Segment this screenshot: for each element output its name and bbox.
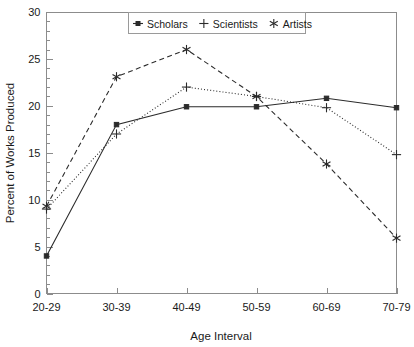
data-point-scholars-20-29 <box>44 254 48 258</box>
x-axis-ticks <box>48 288 398 294</box>
y-axis-tick-labels: 051015202530 <box>28 6 40 300</box>
x-category-label-30-39: 30-39 <box>102 301 130 313</box>
x-category-label-40-49: 40-49 <box>172 301 200 313</box>
series-artists <box>43 45 401 243</box>
y-tick-label: 0 <box>34 288 40 300</box>
series-line-scientists <box>47 87 397 209</box>
data-point-scientists-40-49 <box>182 82 191 91</box>
y-tick-label: 10 <box>28 194 40 206</box>
data-point-scholars-30-39 <box>114 122 118 126</box>
data-point-scholars-70-79 <box>394 106 398 110</box>
x-axis-title: Age Interval <box>190 330 251 342</box>
y-tick-label: 5 <box>34 241 40 253</box>
y-tick-label: 30 <box>28 6 40 18</box>
data-point-artists-40-49 <box>183 45 191 54</box>
series-line-scholars <box>47 98 397 256</box>
x-category-label-60-69: 60-69 <box>312 301 340 313</box>
series-line-artists <box>47 50 397 239</box>
data-point-scientists-70-79 <box>392 150 401 159</box>
data-point-scholars-60-69 <box>324 96 328 100</box>
legend-label-scientists: Scientists <box>213 18 258 30</box>
series-scientists <box>42 82 401 213</box>
data-point-artists-30-39 <box>113 72 121 81</box>
data-point-scholars-40-49 <box>184 105 188 109</box>
x-category-label-70-79: 70-79 <box>382 301 410 313</box>
plot-frame <box>47 12 397 294</box>
y-tick-label: 25 <box>28 53 40 65</box>
y-axis-title: Percent of Works Produced <box>4 83 16 223</box>
x-category-label-50-59: 50-59 <box>242 301 270 313</box>
legend-label-scholars: Scholars <box>147 18 188 30</box>
data-point-scientists-60-69 <box>322 103 331 112</box>
y-tick-label: 20 <box>28 100 40 112</box>
legend-label-artists: Artists <box>283 18 312 30</box>
series-scholars <box>44 96 398 258</box>
x-category-label-20-29: 20-29 <box>32 301 60 313</box>
series-group <box>42 45 401 258</box>
y-tick-label: 15 <box>28 147 40 159</box>
x-axis-category-labels: 20-2930-3940-4950-5960-6970-79 <box>32 301 410 313</box>
data-point-scholars-50-59 <box>254 105 258 109</box>
chart-container: 051015202530 20-2930-3940-4950-5960-6970… <box>0 0 414 347</box>
data-point-artists-70-79 <box>393 234 401 243</box>
y-axis-ticks <box>47 13 53 295</box>
line-chart: 051015202530 20-2930-3940-4950-5960-6970… <box>0 0 414 347</box>
chart-legend: ScholarsScientistsArtists <box>129 13 312 34</box>
